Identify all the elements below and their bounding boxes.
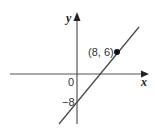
y-axis-label: y <box>64 11 72 25</box>
y-intercept-label: −8 <box>62 96 75 108</box>
point-label: (8, 6) <box>88 46 114 58</box>
point-marker <box>114 49 120 55</box>
y-axis-arrow-icon <box>74 12 81 21</box>
x-axis-label: x <box>140 75 147 89</box>
coordinate-plane: (8, 6) 0 −8 y x <box>0 0 155 132</box>
origin-label: 0 <box>68 76 74 88</box>
